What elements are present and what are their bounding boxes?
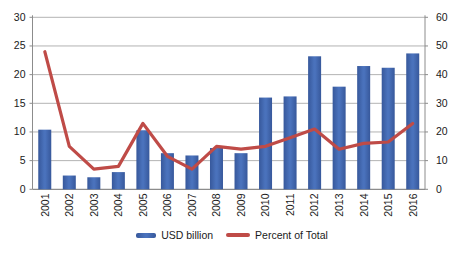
right-axis-label-0: 0 (436, 183, 442, 195)
x-axis-label-2010: 2010 (259, 193, 271, 217)
legend-label-usd-billion: USD billion (161, 229, 213, 241)
x-axis-label-2014: 2014 (358, 193, 370, 217)
left-axis-label-10: 10 (14, 125, 26, 137)
legend-item-percent-of-total: Percent of Total (226, 229, 328, 241)
line-series-swatch-icon (226, 233, 250, 237)
x-axis-label-2003: 2003 (88, 193, 100, 217)
legend-item-usd-billion: USD billion (136, 229, 213, 241)
x-axis-label-2006: 2006 (161, 193, 173, 217)
right-axis-label-20: 20 (436, 125, 448, 137)
bar-2007 (185, 155, 198, 189)
right-axis-label-30: 30 (436, 97, 448, 109)
x-axis-label-2009: 2009 (235, 193, 247, 217)
chart-legend: USD billion Percent of Total (0, 229, 464, 241)
left-axis-label-30: 30 (14, 11, 26, 23)
bar-2001 (38, 130, 51, 190)
right-axis-label-50: 50 (436, 39, 448, 51)
right-axis-label-10: 10 (436, 154, 448, 166)
left-axis-label-25: 25 (14, 39, 26, 51)
x-axis-label-2008: 2008 (210, 193, 222, 217)
bar-2015 (382, 68, 395, 190)
usd-billion-percent-combo-chart: 0510152025300102030405060200120022003200… (0, 0, 464, 224)
left-axis-label-5: 5 (20, 154, 26, 166)
bar-2009 (235, 153, 248, 189)
bar-2008 (210, 148, 223, 189)
x-axis-label-2012: 2012 (308, 193, 320, 217)
legend-label-percent-of-total: Percent of Total (255, 229, 328, 241)
left-axis-label-15: 15 (14, 97, 26, 109)
left-axis-label-20: 20 (14, 68, 26, 80)
x-axis-label-2004: 2004 (112, 193, 124, 217)
bar-2003 (87, 177, 100, 189)
x-axis-label-2001: 2001 (39, 193, 51, 217)
right-axis-label-60: 60 (436, 11, 448, 23)
bar-2005 (136, 130, 149, 189)
bar-2002 (63, 176, 76, 190)
bar-2014 (357, 66, 370, 189)
right-axis-label-40: 40 (436, 68, 448, 80)
x-axis-label-2015: 2015 (382, 193, 394, 217)
chart-figure: 0510152025300102030405060200120022003200… (0, 0, 464, 254)
x-axis-label-2016: 2016 (407, 193, 419, 217)
left-axis-label-0: 0 (20, 183, 26, 195)
bar-series-swatch-icon (136, 233, 156, 238)
x-axis-label-2011: 2011 (284, 193, 296, 216)
x-axis-label-2002: 2002 (63, 193, 75, 217)
bar-2013 (333, 87, 346, 190)
x-axis-label-2005: 2005 (137, 193, 149, 217)
x-axis-label-2007: 2007 (186, 193, 198, 217)
bar-2016 (406, 53, 419, 189)
bar-2004 (112, 172, 125, 189)
x-axis-label-2013: 2013 (333, 193, 345, 217)
bar-2012 (308, 56, 321, 189)
bar-2011 (284, 96, 297, 189)
